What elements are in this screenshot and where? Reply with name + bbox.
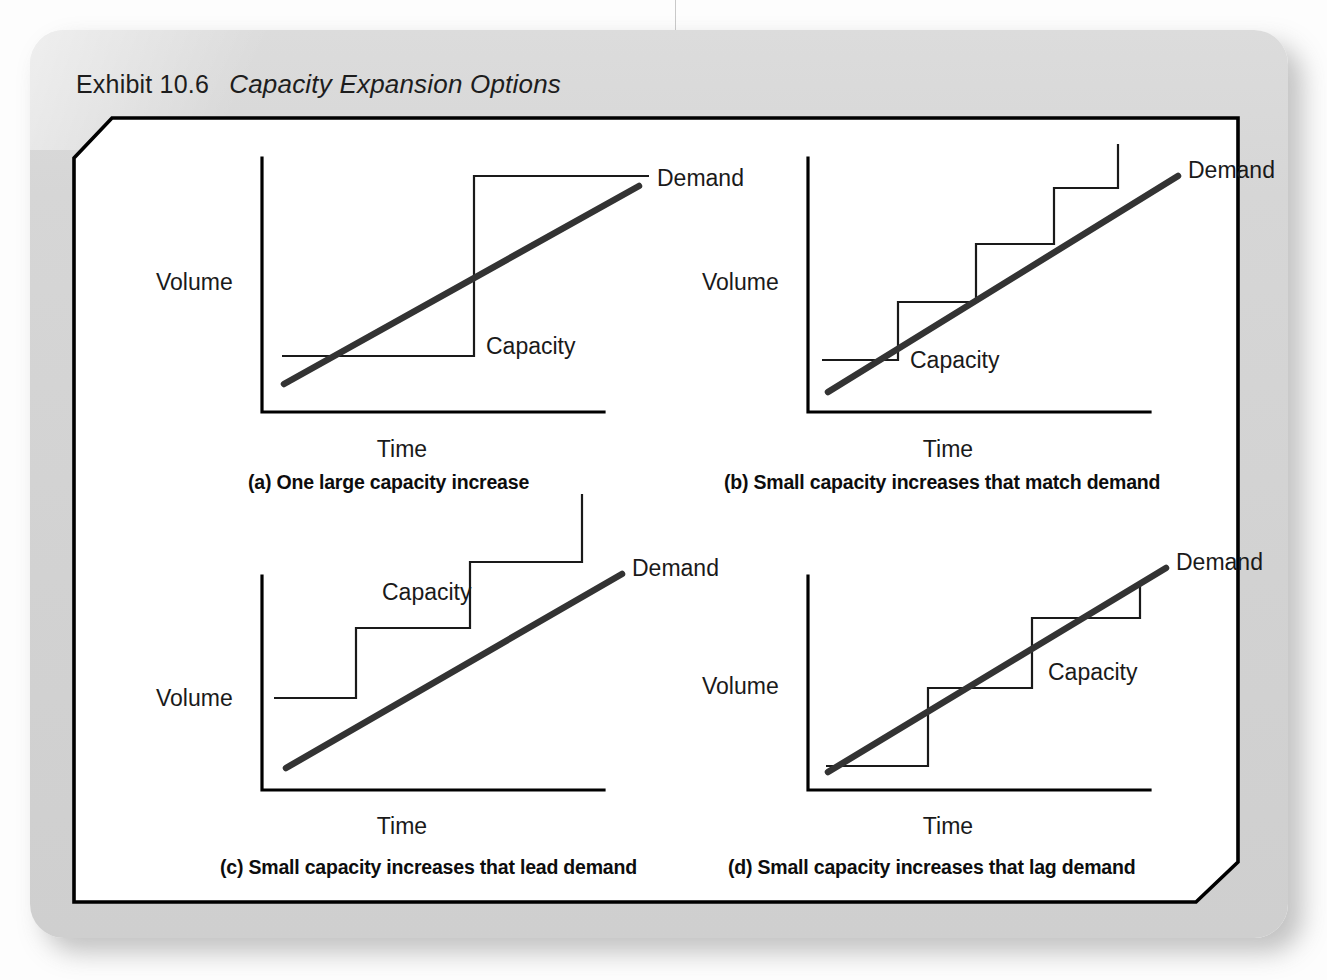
panel-a-capacity-line	[282, 176, 649, 356]
panel-a-time-label: Time	[377, 436, 427, 462]
panel-b-demand-line	[828, 176, 1178, 392]
panel-c-chart: Volume Time Demand Capacity	[134, 494, 694, 834]
panel-a-axes	[262, 158, 604, 412]
panel-c: Volume Time Demand Capacity	[134, 494, 694, 834]
panel-a-volume-label: Volume	[156, 269, 233, 295]
page-background: Exhibit 10.6 Capacity Expansion Options …	[0, 0, 1327, 980]
panel-c-volume-label: Volume	[156, 685, 233, 711]
panel-b-caption: (b) Small capacity increases that match …	[724, 471, 1160, 494]
panel-a-chart: Volume Time Demand Capacity	[134, 144, 694, 474]
panel-d-chart: Volume Time Demand Capacity	[680, 494, 1240, 834]
panel-b-time-label: Time	[923, 436, 973, 462]
panel-a-capacity-label: Capacity	[486, 333, 576, 359]
panel-c-time-label: Time	[377, 813, 427, 839]
exhibit-number: 10.6	[160, 70, 209, 98]
panel-c-capacity-label: Capacity	[382, 579, 472, 605]
panel-b-demand-label: Demand	[1188, 157, 1275, 183]
panel-d-capacity-label: Capacity	[1048, 659, 1138, 685]
exhibit-caption: Capacity Expansion Options	[229, 69, 561, 99]
page-seam-line	[675, 0, 676, 30]
panel-b-volume-label: Volume	[702, 269, 779, 295]
panel-d: Volume Time Demand Capacity	[680, 494, 1240, 834]
panel-d-caption: (d) Small capacity increases that lag de…	[728, 856, 1135, 879]
panel-b-chart: Volume Time Demand Capacity	[680, 144, 1240, 474]
panel-b-capacity-label: Capacity	[910, 347, 1000, 373]
panel-a: Volume Time Demand Capacity	[134, 144, 694, 474]
panel-b-capacity-line	[822, 144, 1118, 360]
exhibit-label: Exhibit	[76, 70, 152, 98]
panel-a-caption: (a) One large capacity increase	[248, 471, 529, 494]
figure-plate: Volume Time Demand Capacity (a) One larg…	[72, 116, 1240, 904]
exhibit-title: Exhibit 10.6 Capacity Expansion Options	[76, 69, 561, 100]
panel-d-volume-label: Volume	[702, 673, 779, 699]
panel-b: Volume Time Demand Capacity	[680, 144, 1240, 474]
panel-c-caption: (c) Small capacity increases that lead d…	[220, 856, 637, 879]
panel-d-time-label: Time	[923, 813, 973, 839]
panel-a-demand-line	[284, 186, 639, 384]
panel-d-demand-label: Demand	[1176, 549, 1263, 575]
exhibit-card: Exhibit 10.6 Capacity Expansion Options …	[30, 30, 1288, 938]
